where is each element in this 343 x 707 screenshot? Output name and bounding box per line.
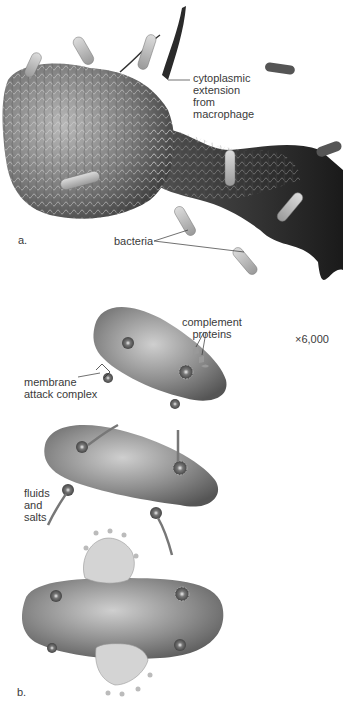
label-line: cytoplasmic <box>193 72 254 84</box>
bacterium-lysed <box>22 529 223 697</box>
label-line: membrane <box>24 376 97 388</box>
label-line: attack complex <box>24 388 97 400</box>
macrophage-micrograph <box>3 6 343 280</box>
figure-illustration <box>0 0 343 707</box>
complement-proteins-label: complement proteins <box>182 316 242 340</box>
label-line: extension <box>193 84 254 96</box>
label-line: macrophage <box>193 108 254 120</box>
bacterium-fluid-influx <box>44 425 218 555</box>
label-line: salts <box>24 511 50 523</box>
bacteria-label: bacteria <box>114 235 153 247</box>
label-line: from <box>193 96 254 108</box>
panel-a-label: a. <box>18 234 27 246</box>
cytoplasmic-extension-label: cytoplasmic extension from macrophage <box>193 72 254 120</box>
membrane-attack-complex-label: membrane attack complex <box>24 376 97 400</box>
label-line: proteins <box>182 328 242 340</box>
panel-b-label: b. <box>17 686 26 698</box>
label-line: fluids <box>24 487 50 499</box>
magnification-label: ×6,000 <box>295 333 329 345</box>
label-line: and <box>24 499 50 511</box>
label-line: complement <box>182 316 242 328</box>
fluids-and-salts-label: fluids and salts <box>24 487 50 523</box>
